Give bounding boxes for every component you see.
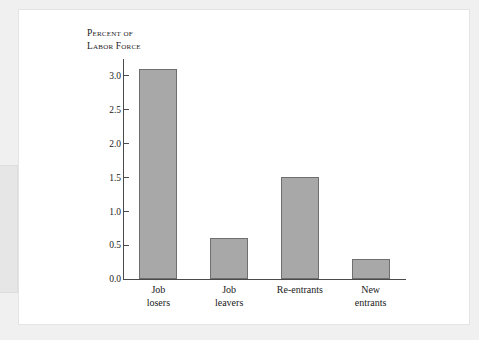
bar [352,259,390,279]
x-axis-category-label: Job losers [123,283,194,309]
y-tick-label: 2.0 [109,139,124,149]
bars-group [123,59,406,279]
x-axis-category-label: Re-entrants [265,283,336,296]
y-tick-label: 0.5 [109,241,124,251]
bar [281,177,319,279]
plot-area: 0.00.51.01.52.02.53.0 Job losersJob leav… [123,59,406,279]
y-tick-label: 1.0 [109,207,124,217]
y-tick-label: 3.0 [109,72,124,82]
y-tick-label: 1.5 [109,173,124,183]
x-axis-category-label: Job leavers [194,283,265,309]
bar-chart-figure: Percent of Labor Force 0.00.51.01.52.02.… [19,10,471,326]
bar [210,238,248,279]
left-edge-panel-fragment [0,165,18,293]
x-axis-category-label: New entrants [335,283,406,309]
figure-card: Percent of Labor Force 0.00.51.01.52.02.… [18,9,470,325]
y-axis-title: Percent of Labor Force [87,27,141,53]
x-axis-line [123,279,406,280]
y-tick-label: 0.0 [109,275,124,285]
x-axis-labels: Job losersJob leaversRe-entrantsNew entr… [123,283,406,323]
bar [139,69,177,279]
y-tick-label: 2.5 [109,106,124,116]
